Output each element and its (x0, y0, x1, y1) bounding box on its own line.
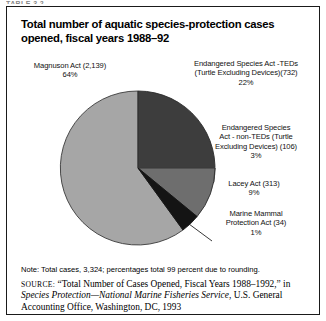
cutoff-header-sliver: TABLE 3.2 (6, 0, 66, 4)
pie-label-esa-non-teds-line2: Act - non-TEDs (Turtle (193, 132, 319, 141)
pie-label-esa-non-teds: Endangered Species Act - non-TEDs (Turtl… (193, 123, 319, 161)
source-label: source: (21, 280, 55, 289)
pie-label-esa-non-teds-line4: 3% (193, 151, 319, 160)
pie-label-esa-teds-line1: Endangered Species Act -TEDs (173, 59, 319, 68)
chart-area: Magnuson Act (2,139) 64% Endangered Spec… (7, 51, 320, 251)
pie-label-lacey: Lacey Act (313) 9% (199, 179, 309, 198)
figure-container: TABLE 3.2 Total number of aquatic specie… (0, 0, 326, 321)
source-publication: Species Protection—National Marine Fishe… (21, 290, 229, 300)
pie-label-marine-mammal: Marine Mammal Protection Act (34) 1% (197, 209, 315, 237)
pie-label-lacey-line1: Lacey Act (313) (199, 179, 309, 188)
source-quoted-title: “Total Number of Cases Opened, Fiscal Ye… (58, 279, 291, 289)
pie-label-esa-non-teds-line1: Endangered Species (193, 123, 319, 132)
pie-label-magnuson-line2: 64% (13, 70, 127, 79)
chart-source: source: “Total Number of Cases Opened, F… (21, 279, 315, 313)
pie-label-marine-mammal-line3: 1% (197, 228, 315, 237)
pie-label-esa-teds: Endangered Species Act -TEDs (Turtle Exc… (173, 59, 319, 87)
pie-label-magnuson-line1: Magnuson Act (2,139) (13, 61, 127, 70)
chart-note: Note: Total cases, 3,324; percentages to… (21, 265, 313, 275)
pie-label-lacey-line2: 9% (199, 188, 309, 197)
page-title: Total number of aquatic species-protecti… (21, 18, 301, 45)
pie-label-marine-mammal-line1: Marine Mammal (197, 209, 315, 218)
pie-label-marine-mammal-line2: Protection Act (34) (197, 218, 315, 227)
pie-label-magnuson: Magnuson Act (2,139) 64% (13, 61, 127, 80)
pie-label-esa-teds-line3: 22% (173, 78, 319, 87)
pie-label-esa-non-teds-line3: Excluding Devices) (106) (193, 142, 319, 151)
figure-frame: Total number of aquatic species-protecti… (6, 6, 320, 315)
pie-label-esa-teds-line2: (Turtle Excluding Devices)(732) (173, 68, 319, 77)
